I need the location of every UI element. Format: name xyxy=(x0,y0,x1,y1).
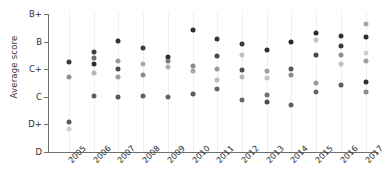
data-point xyxy=(314,89,319,94)
data-point xyxy=(116,58,121,63)
y-tick-B+ xyxy=(44,14,48,15)
y-tick-D+ xyxy=(44,124,48,125)
data-point xyxy=(116,94,121,99)
data-point xyxy=(141,61,146,66)
gridline-2012 xyxy=(242,12,243,152)
data-point xyxy=(190,69,195,74)
data-point xyxy=(338,53,343,58)
data-point xyxy=(165,94,170,99)
data-point xyxy=(91,94,96,99)
data-point xyxy=(338,83,343,88)
data-point xyxy=(165,64,170,69)
y-tick-B xyxy=(44,42,48,43)
data-point xyxy=(215,78,220,83)
data-point xyxy=(314,31,319,36)
data-point xyxy=(91,50,96,55)
data-point xyxy=(363,51,368,56)
data-point xyxy=(363,58,368,63)
y-tick-label: C+ xyxy=(29,64,42,74)
data-point xyxy=(289,40,294,45)
data-point xyxy=(338,34,343,39)
data-point xyxy=(314,52,319,57)
y-tick-D xyxy=(44,152,48,153)
average-score-dot-chart: Average score B+BC+CD+D20052006200720082… xyxy=(0,0,387,195)
data-point xyxy=(91,70,96,75)
data-point xyxy=(240,67,245,72)
y-axis-title: Average score xyxy=(9,7,19,127)
plot-area: B+BC+CD+D2005200620072008200920102011201… xyxy=(48,8,378,153)
data-point xyxy=(363,80,368,85)
gridline-2009 xyxy=(168,12,169,152)
data-point xyxy=(116,66,121,71)
data-point xyxy=(338,61,343,66)
data-point xyxy=(116,75,121,80)
data-point xyxy=(240,98,245,103)
y-tick-label: B xyxy=(36,37,42,47)
data-point xyxy=(215,53,220,58)
data-point xyxy=(215,37,220,42)
gridline-2010 xyxy=(193,12,194,152)
data-point xyxy=(314,38,319,43)
y-axis-line xyxy=(48,14,49,153)
data-point xyxy=(264,48,269,53)
data-point xyxy=(67,120,72,125)
gridline-2008 xyxy=(143,12,144,152)
data-point xyxy=(264,76,269,81)
data-point xyxy=(141,45,146,50)
data-point xyxy=(363,34,368,39)
data-point xyxy=(91,56,96,61)
y-tick-label: C xyxy=(36,92,42,102)
y-tick-label: B+ xyxy=(29,9,42,19)
data-point xyxy=(215,66,220,71)
data-point xyxy=(314,81,319,86)
data-point xyxy=(289,73,294,78)
data-point xyxy=(240,41,245,46)
data-point xyxy=(141,94,146,99)
y-axis-title-wrap: Average score xyxy=(0,0,24,160)
data-point xyxy=(363,89,368,94)
data-point xyxy=(363,22,368,27)
gridline-2007 xyxy=(118,12,119,152)
data-point xyxy=(67,60,72,65)
gridline-2013 xyxy=(267,12,268,152)
y-tick-C+ xyxy=(44,69,48,70)
data-point xyxy=(141,73,146,78)
data-point xyxy=(264,93,269,98)
gridline-2006 xyxy=(94,12,95,152)
gridline-2014 xyxy=(291,12,292,152)
data-point xyxy=(215,87,220,92)
data-point xyxy=(67,74,72,79)
y-tick-label: D xyxy=(35,147,42,157)
data-point xyxy=(264,69,269,74)
data-point xyxy=(165,59,170,64)
data-point xyxy=(289,66,294,71)
data-point xyxy=(338,43,343,48)
y-tick-label: D+ xyxy=(28,119,42,129)
data-point xyxy=(190,92,195,97)
data-point xyxy=(67,127,72,132)
data-point xyxy=(240,52,245,57)
data-point xyxy=(91,62,96,67)
data-point xyxy=(240,74,245,79)
y-tick-C xyxy=(44,97,48,98)
data-point xyxy=(116,39,121,44)
data-point xyxy=(190,28,195,33)
data-point xyxy=(289,103,294,108)
data-point xyxy=(264,100,269,105)
